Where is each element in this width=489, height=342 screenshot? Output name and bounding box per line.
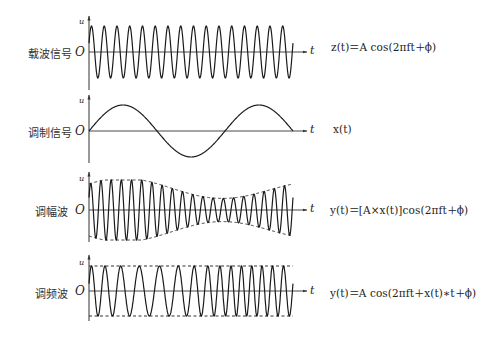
row-label-am: 调幅波 <box>35 203 68 219</box>
formula-carrier: z(t)＝A cos(2πft＋ϕ) <box>331 39 436 54</box>
formula-fm: y(t)＝A cos(2πft＋x(t)∗t＋ϕ) <box>330 285 476 300</box>
x-axis-label: t <box>310 202 314 215</box>
am-envelope-lower <box>89 222 293 240</box>
origin-label: O <box>75 203 85 217</box>
y-axis-label: u <box>79 17 84 26</box>
origin-label: O <box>75 124 85 138</box>
x-axis-label: t <box>310 284 314 297</box>
y-axis-label: u <box>79 258 84 267</box>
row-label-modulating: 调制信号 <box>28 124 72 140</box>
row-label-fm: 调频波 <box>35 285 68 301</box>
x-axis-label: t <box>310 123 314 136</box>
origin-label: O <box>75 45 85 59</box>
formula-modulating: x(t) <box>333 123 352 135</box>
origin-label: O <box>75 284 85 298</box>
row-label-carrier: 载波信号 <box>28 45 72 61</box>
formula-am: y(t)＝[A×x(t)]cos(2πft＋ϕ) <box>330 202 468 217</box>
y-axis-label: u <box>79 96 84 105</box>
y-axis-label: u <box>79 174 84 183</box>
x-axis-label: t <box>310 44 314 57</box>
